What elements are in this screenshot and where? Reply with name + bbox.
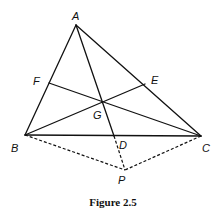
label-e: E: [151, 74, 159, 86]
side-bc: [25, 135, 201, 136]
label-p: P: [118, 174, 126, 186]
geometry-figure: A F E G B D C P Figure 2.5: [0, 0, 222, 215]
median-cf: [49, 83, 201, 136]
label-a: A: [71, 10, 79, 22]
median-be: [25, 84, 145, 135]
dashed-bp: [25, 135, 125, 170]
label-b: B: [11, 142, 18, 154]
label-f: F: [33, 75, 41, 87]
figure-caption: Figure 2.5: [89, 196, 137, 208]
dashed-cp: [125, 136, 201, 170]
label-c: C: [202, 142, 210, 154]
label-g: G: [93, 109, 102, 121]
label-d: D: [119, 139, 127, 151]
